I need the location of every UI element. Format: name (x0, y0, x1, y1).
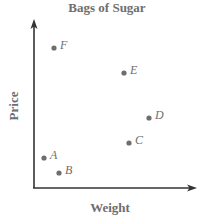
data-point-e (121, 70, 126, 75)
data-point-f (51, 45, 56, 50)
point-label-f: F (59, 38, 68, 52)
scatter-plot: ABCDEF (0, 0, 206, 221)
y-axis (31, 19, 38, 188)
point-label-a: A (49, 148, 58, 162)
point-label-e: E (129, 63, 138, 77)
point-label-c: C (135, 133, 144, 147)
data-points: ABCDEF (41, 38, 164, 177)
data-point-a (41, 155, 46, 160)
data-point-d (146, 115, 151, 120)
data-point-c (126, 140, 131, 145)
point-label-d: D (154, 108, 164, 122)
point-label-b: B (65, 163, 73, 177)
x-axis (33, 185, 197, 192)
data-point-b (56, 170, 61, 175)
